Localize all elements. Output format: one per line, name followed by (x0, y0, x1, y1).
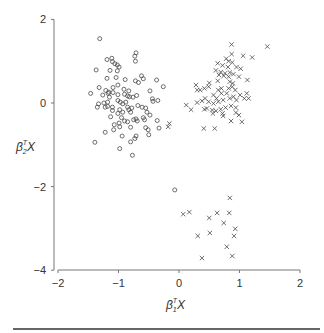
circle-marker (105, 76, 109, 80)
cross-marker (189, 107, 193, 111)
circle-marker (116, 83, 120, 87)
circle-marker (136, 104, 140, 108)
circle-marker (148, 113, 152, 117)
cross-marker (234, 65, 238, 69)
cross-marker (206, 100, 210, 104)
cross-marker (237, 74, 241, 78)
cross-marker (212, 126, 216, 130)
circle-marker (103, 130, 107, 134)
cross-marker (228, 196, 232, 200)
circle-marker (101, 93, 105, 97)
x-axis-label: β1TX (165, 297, 186, 313)
circle-marker (107, 95, 111, 99)
cross-marker (237, 113, 241, 117)
cross-marker (200, 256, 204, 260)
cross-marker (233, 88, 237, 92)
data-points (89, 37, 270, 261)
cross-marker (225, 245, 229, 249)
cross-marker (250, 55, 254, 59)
circle-marker (120, 116, 124, 120)
cross-marker (234, 98, 238, 102)
circle-marker (155, 119, 159, 123)
cross-marker (208, 231, 212, 235)
circle-marker (156, 98, 160, 102)
circle-marker (148, 89, 152, 93)
cross-marker (230, 60, 234, 64)
circle-marker (147, 133, 151, 137)
cross-marker (194, 83, 198, 87)
circle-marker (120, 134, 124, 138)
cross-marker (232, 234, 236, 238)
cross-marker (216, 79, 220, 83)
cross-marker (198, 88, 202, 92)
cross-marker (239, 67, 243, 71)
y-tick-label: 0 (40, 97, 46, 109)
circle-marker (116, 93, 120, 97)
circle-marker (117, 121, 121, 125)
circle-marker (118, 125, 122, 129)
circle-marker (112, 123, 116, 127)
y-tick-label: −2 (33, 181, 46, 193)
circle-marker (106, 104, 110, 108)
cross-marker (233, 227, 237, 231)
circle-marker (105, 58, 109, 62)
circle-marker (118, 147, 122, 151)
cross-marker (223, 105, 227, 109)
circle-marker (112, 128, 116, 132)
circle-marker (123, 78, 127, 82)
cross-marker (242, 96, 246, 100)
cross-marker (225, 91, 229, 95)
cross-marker (221, 98, 225, 102)
cross-marker (245, 78, 249, 82)
cross-marker (229, 42, 233, 46)
circle-marker (97, 86, 101, 90)
cross-marker (226, 74, 230, 78)
cross-marker (229, 119, 233, 123)
cross-marker (219, 91, 223, 95)
cross-marker (227, 211, 231, 215)
circle-marker (151, 99, 155, 103)
axes: −4−202−2−1012 (33, 13, 303, 289)
circle-marker (114, 76, 118, 80)
circle-marker (129, 125, 133, 129)
cross-marker (214, 68, 218, 72)
cross-marker (166, 125, 170, 129)
cross-marker (215, 211, 219, 215)
circle-marker (94, 68, 98, 72)
circle-marker (129, 140, 133, 144)
cross-marker (241, 54, 245, 58)
cross-marker (202, 126, 206, 130)
circle-marker (111, 86, 115, 90)
cross-marker (229, 52, 233, 56)
cross-marker (202, 86, 206, 90)
cross-marker (216, 61, 220, 65)
circle-marker (103, 105, 107, 109)
cross-marker (226, 65, 230, 69)
cross-marker (246, 96, 250, 100)
circle-marker (116, 111, 120, 115)
circle-marker (173, 188, 177, 192)
circle-marker (115, 69, 119, 73)
circle-marker (93, 140, 97, 144)
circle-marker (133, 59, 137, 63)
y-axis-label: β2TX (15, 139, 36, 155)
cross-marker (220, 63, 224, 67)
cross-marker (222, 221, 226, 225)
cross-marker (184, 103, 188, 107)
circle-marker (127, 89, 131, 93)
cross-marker (229, 104, 233, 108)
cross-marker (265, 44, 269, 48)
circle-marker (89, 91, 93, 95)
cross-marker (226, 59, 230, 63)
cross-marker (234, 105, 238, 109)
scatter-chart: −4−202−2−1012 β1TX β2TX (0, 0, 324, 333)
cross-marker (211, 101, 215, 105)
cross-marker (211, 111, 215, 115)
circle-marker (109, 115, 113, 119)
cross-marker (195, 100, 199, 104)
circle-marker (157, 126, 161, 130)
circle-marker (108, 68, 112, 72)
cross-marker (196, 234, 200, 238)
y-tick-label: −4 (33, 264, 46, 276)
cross-marker (181, 212, 185, 216)
